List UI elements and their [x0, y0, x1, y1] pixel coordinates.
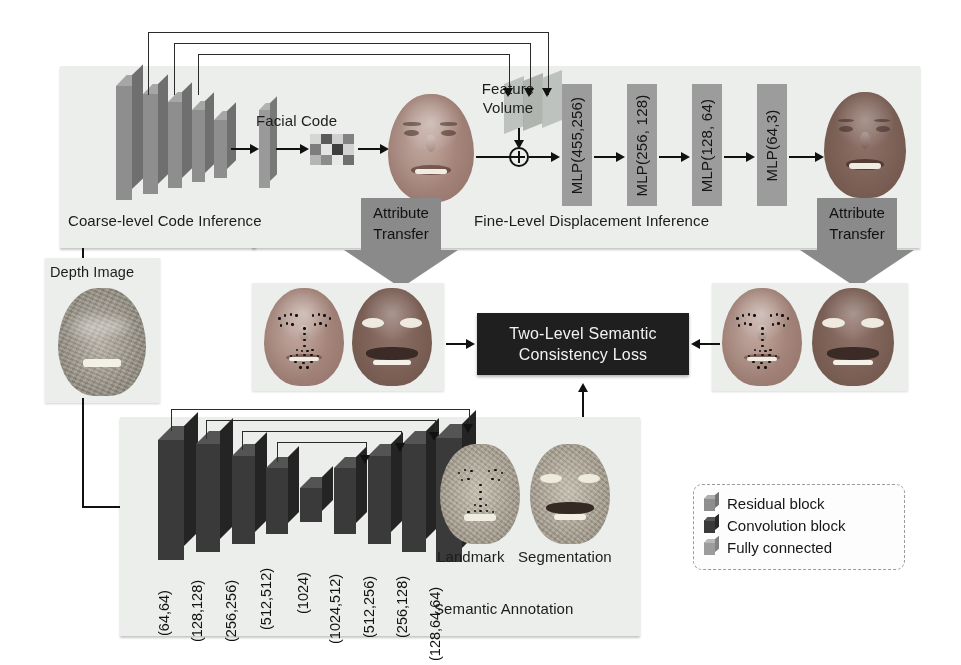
attribute-transfer-left-line1: Attribute	[344, 204, 458, 222]
unet-skip-4	[277, 442, 367, 462]
arrowhead-fine-face-in	[815, 152, 824, 162]
mlp-bar-3: MLP(128, 64)	[692, 84, 722, 206]
arrowhead-skip-1	[542, 88, 552, 97]
mlp-bar-1: MLP(455,256)	[562, 84, 592, 206]
arrowhead-code-in-top	[300, 144, 309, 154]
arrowhead-skip-3	[503, 88, 513, 97]
arrowhead-loss-left	[466, 339, 475, 349]
fine-face-output	[824, 92, 906, 198]
arrow-mlp2-to-mlp3	[659, 156, 683, 158]
residual-block-3-top	[168, 102, 182, 188]
arrow-mlp4-to-fine-face	[789, 156, 817, 158]
legend-box: Residual block Convolution block Fully c…	[693, 484, 905, 570]
conv-block-6	[334, 468, 356, 534]
skip-connection-3	[198, 54, 510, 95]
arrow-right-pair-to-loss	[698, 343, 720, 345]
arrowhead-fc-in-top	[250, 144, 259, 154]
conv-block-8	[402, 444, 426, 552]
attribute-transfer-arrow-left: Attribute Transfer	[344, 198, 458, 288]
arrow-sum-to-mlp1	[529, 156, 553, 158]
conv-block-1	[158, 440, 184, 560]
arrow-enc-to-fc-top	[231, 148, 252, 150]
arrowhead-unet-skip-4	[360, 455, 370, 464]
mlp-bar-4: MLP(64,3)	[757, 84, 787, 206]
coarse-landmark-face	[264, 288, 344, 386]
legend-item-fully-connected: Fully connected	[704, 536, 892, 558]
residual-block-2-top	[143, 94, 158, 194]
unet-dim-label-2: (128,128)	[189, 580, 205, 642]
landmark-output-face	[440, 444, 520, 544]
legend-label-fully-connected: Fully connected	[727, 539, 832, 556]
mlp-bar-2-label: MLP(256, 128)	[634, 94, 651, 196]
unet-dim-label-1: (64,64)	[156, 590, 172, 636]
conv-block-2	[196, 444, 220, 552]
segmentation-label: Segmentation	[518, 548, 612, 565]
legend-item-residual: Residual block	[704, 492, 892, 514]
loss-line-2: Consistency Loss	[519, 346, 648, 363]
coarse-panel-label-top: Coarse-level Code Inference	[68, 212, 262, 229]
unet-dim-label-3: (256,256)	[223, 580, 239, 642]
unet-dim-label-7: (512,256)	[361, 576, 377, 638]
legend-label-residual: Residual block	[727, 495, 825, 512]
facial-code-label-top: Facial Code	[256, 112, 337, 129]
unet-dim-label-5: (1024)	[295, 572, 311, 614]
arrow-mlp1-to-mlp2	[594, 156, 618, 158]
arrowhead-loss-right	[691, 339, 700, 349]
attribute-transfer-right-line1: Attribute	[800, 204, 914, 222]
semantic-annotation-panel-label: Semantic Annotation	[434, 600, 574, 617]
residual-block-4-top	[192, 110, 205, 182]
loss-text: Two-Level Semantic Consistency Loss	[509, 323, 657, 365]
unet-dim-label-6: (1024,512)	[327, 574, 343, 644]
segmentation-output-face	[530, 444, 610, 544]
figure-canvas: Coarse-level Code Inference Facial Code	[0, 0, 961, 665]
fine-panel-label: Fine-Level Displacement Inference	[474, 212, 709, 229]
residual-block-icon	[704, 495, 719, 511]
mlp-bar-1-label: MLP(455,256)	[569, 96, 586, 193]
coarse-face-output-top	[388, 94, 474, 202]
conv-block-4	[266, 468, 288, 534]
arrowhead-unet-skip-2	[429, 432, 439, 441]
consistency-loss-box: Two-Level Semantic Consistency Loss	[477, 313, 689, 375]
arrowhead-mlp1-in	[551, 152, 560, 162]
fully-connected-icon	[704, 539, 719, 555]
residual-block-1-top	[116, 86, 132, 200]
arrowhead-mlp2-in	[616, 152, 625, 162]
landmark-label: Landmark	[437, 548, 505, 565]
loss-line-1: Two-Level Semantic	[509, 325, 657, 342]
attribute-transfer-right-line2: Transfer	[800, 225, 914, 243]
mlp-bar-2: MLP(256, 128)	[627, 84, 657, 206]
fine-landmark-face	[722, 288, 802, 386]
fine-segmentation-face	[812, 288, 894, 386]
arrow-left-pair-to-loss	[446, 343, 468, 345]
legend-item-convolution: Convolution block	[704, 514, 892, 536]
arrowhead-unet-skip-3	[395, 443, 405, 452]
arrowhead-unet-skip-1	[463, 424, 473, 433]
arrowhead-loss-bottom	[578, 383, 588, 392]
facial-code-mosaic-top	[310, 134, 354, 165]
coarse-segmentation-face	[352, 288, 432, 386]
unet-dim-label-4: (512,512)	[258, 568, 274, 630]
depth-image-label: Depth Image	[50, 264, 134, 280]
attribute-transfer-arrow-right: Attribute Transfer	[800, 198, 914, 288]
attribute-transfer-left-line2: Transfer	[344, 225, 458, 243]
mlp-bar-3-label: MLP(128, 64)	[699, 98, 716, 191]
conv-block-7	[368, 456, 391, 544]
unet-dim-label-8: (256,128)	[394, 576, 410, 638]
feature-volume-label-line2: Volume	[476, 99, 540, 116]
depth-image	[58, 288, 146, 396]
conv-block-3	[232, 456, 255, 544]
arrow-depth-to-unet-v	[82, 398, 84, 508]
residual-block-5-top	[214, 120, 227, 178]
arrowhead-mlp3-in	[681, 152, 690, 162]
arrowhead-mlp4-in	[746, 152, 755, 162]
arrow-fc-to-code-top	[276, 148, 302, 150]
arrow-code-to-face-top	[358, 148, 382, 150]
unet-dim-label-9: (128,64,64)	[427, 587, 443, 661]
convolution-block-icon	[704, 517, 719, 533]
conv-block-5-bottleneck	[300, 488, 322, 522]
arrowhead-skip-2	[524, 88, 534, 97]
arrow-mlp3-to-mlp4	[724, 156, 748, 158]
mlp-bar-4-label: MLP(64,3)	[764, 109, 781, 181]
legend-label-convolution: Convolution block	[727, 517, 845, 534]
sum-icon	[509, 147, 529, 167]
